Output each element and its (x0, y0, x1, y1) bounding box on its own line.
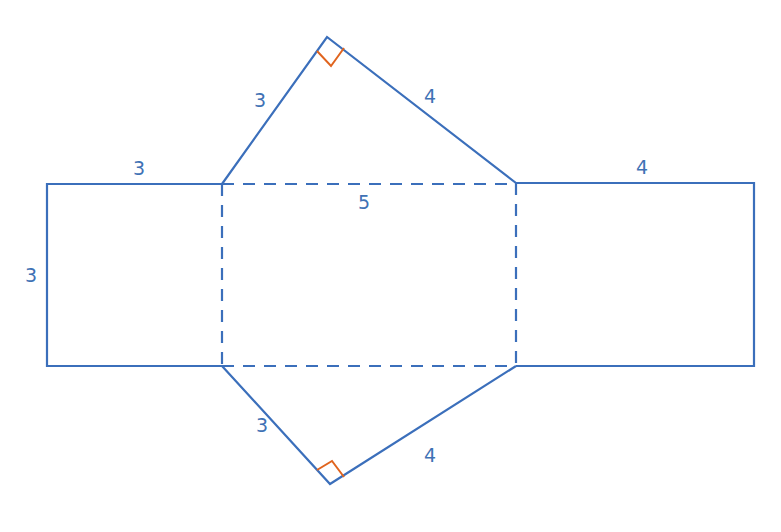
right-rectangle (516, 183, 754, 366)
left-square (47, 184, 222, 366)
label-right-rect-top: 4 (636, 156, 648, 178)
label-left-rect-top: 3 (133, 157, 145, 179)
label-bottom-triangle-right: 4 (424, 444, 436, 466)
label-left-rect-side: 3 (25, 264, 37, 286)
label-top-triangle-left: 3 (254, 89, 266, 111)
label-center-rect-top: 5 (358, 191, 370, 213)
prism-net-diagram: 3 4 3 3 5 4 3 4 (0, 0, 781, 532)
label-top-triangle-right: 4 (424, 85, 436, 107)
right-angle-marker-top (317, 48, 344, 66)
top-triangle (222, 37, 516, 184)
label-bottom-triangle-left: 3 (256, 414, 268, 436)
